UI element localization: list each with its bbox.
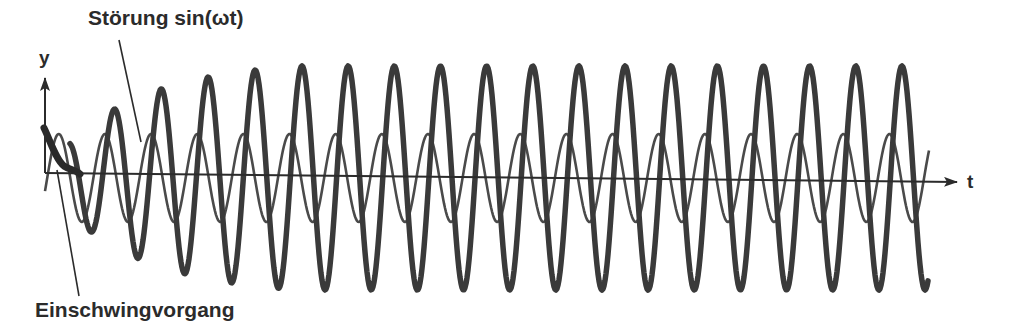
t-axis-label: t — [967, 172, 973, 191]
disturbance-label: Störung sin(ωt) — [88, 7, 243, 28]
y-axis-label: y — [39, 48, 50, 67]
transient-pointer-line — [57, 170, 79, 296]
resonance-diagram — [0, 0, 1017, 328]
transient-label: Einschwingvorgang — [35, 299, 235, 320]
